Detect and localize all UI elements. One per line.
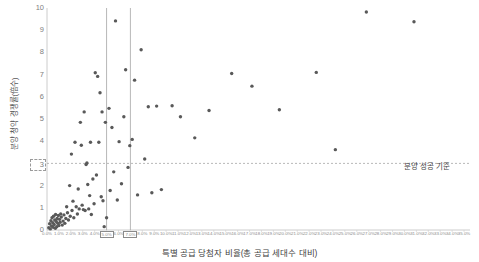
data-point bbox=[65, 205, 68, 208]
x-tick-label: 7.0% bbox=[123, 231, 137, 238]
data-point bbox=[57, 224, 60, 227]
data-point bbox=[126, 166, 129, 169]
data-point bbox=[69, 215, 72, 218]
x-tick-label: 17.0% bbox=[243, 232, 255, 236]
data-point bbox=[70, 152, 73, 155]
x-axis-title: 특별 공급 당첨자 비율(총 공급 세대수 대비) bbox=[0, 246, 479, 258]
x-tick-label: 19.0% bbox=[267, 232, 279, 236]
data-point bbox=[59, 212, 62, 215]
x-tick-label: 1.0% bbox=[54, 232, 64, 236]
data-point bbox=[107, 107, 110, 110]
x-tick-label: 30.0% bbox=[398, 232, 410, 236]
scatter-chart: 분양 청약 경쟁률(倍수) 012345678910 0.0%1.0%2.0%3… bbox=[0, 0, 479, 262]
data-point bbox=[89, 141, 92, 144]
x-tick-label: 4.0% bbox=[90, 232, 100, 236]
data-point bbox=[315, 71, 318, 74]
data-point bbox=[104, 121, 107, 124]
data-point bbox=[139, 48, 142, 51]
data-point bbox=[74, 205, 77, 208]
data-point bbox=[90, 213, 93, 216]
x-tick-label: 13.0% bbox=[196, 232, 208, 236]
x-tick-label: 9.0% bbox=[149, 232, 159, 236]
x-tick-label: 29.0% bbox=[386, 232, 398, 236]
data-point bbox=[128, 144, 131, 147]
data-point bbox=[334, 148, 337, 151]
data-point bbox=[66, 211, 69, 214]
data-point bbox=[116, 198, 119, 201]
data-point bbox=[83, 209, 86, 212]
data-point bbox=[278, 108, 281, 111]
x-tick-label: 16.0% bbox=[231, 232, 243, 236]
data-point bbox=[100, 110, 103, 113]
data-point bbox=[80, 143, 83, 146]
x-tick-label: 24.0% bbox=[327, 232, 339, 236]
data-point bbox=[92, 202, 95, 205]
data-point bbox=[101, 199, 104, 202]
data-point bbox=[63, 222, 66, 225]
x-tick-label: 28.0% bbox=[374, 232, 386, 236]
data-point bbox=[88, 194, 91, 197]
x-tick-label: 21.0% bbox=[291, 232, 303, 236]
data-point bbox=[82, 110, 85, 113]
data-point bbox=[98, 91, 101, 94]
data-point bbox=[73, 141, 76, 144]
data-point bbox=[100, 195, 103, 198]
x-axis-ticks: 0.0%1.0%2.0%3.0%4.0%5.0%6.0%7.0%8.0%9.0%… bbox=[0, 232, 479, 244]
x-tick-label: 31.0% bbox=[410, 232, 422, 236]
x-tick-label: 14.0% bbox=[208, 232, 220, 236]
x-tick-label: 5.0% bbox=[100, 231, 114, 238]
data-point bbox=[133, 78, 136, 81]
data-point bbox=[365, 10, 368, 13]
data-point bbox=[193, 136, 196, 139]
x-tick-label: 15.0% bbox=[219, 232, 231, 236]
data-point bbox=[68, 184, 71, 187]
data-point bbox=[62, 213, 65, 216]
x-tick-label: 20.0% bbox=[279, 232, 291, 236]
data-point bbox=[412, 20, 415, 23]
x-tick-label: 8.0% bbox=[137, 232, 147, 236]
x-tick-label: 27.0% bbox=[362, 232, 374, 236]
x-tick-label: 18.0% bbox=[255, 232, 267, 236]
x-tick-label: 12.0% bbox=[184, 232, 196, 236]
x-tick-label: 3.0% bbox=[78, 232, 88, 236]
x-tick-label: 10.0% bbox=[160, 232, 172, 236]
data-point bbox=[250, 84, 253, 87]
data-point bbox=[79, 121, 82, 124]
data-point bbox=[80, 203, 83, 206]
data-point bbox=[120, 182, 123, 185]
data-point bbox=[155, 104, 158, 107]
data-point bbox=[150, 191, 153, 194]
data-point bbox=[97, 141, 100, 144]
x-tick-label: 33.0% bbox=[434, 232, 446, 236]
data-point bbox=[58, 221, 61, 224]
data-point bbox=[130, 138, 133, 141]
data-point bbox=[72, 216, 75, 219]
x-tick-label: 0.0% bbox=[42, 232, 52, 236]
x-tick-label: 23.0% bbox=[315, 232, 327, 236]
x-tick-label: 32.0% bbox=[422, 232, 434, 236]
data-point bbox=[96, 75, 99, 78]
data-point bbox=[86, 183, 89, 186]
x-tick-label: 35.0% bbox=[458, 232, 470, 236]
data-point bbox=[105, 216, 108, 219]
data-point bbox=[91, 177, 94, 180]
data-point bbox=[179, 115, 182, 118]
data-point bbox=[160, 188, 163, 191]
data-point bbox=[60, 215, 63, 218]
data-point bbox=[76, 212, 79, 215]
data-point bbox=[52, 223, 55, 226]
x-tick-label: 22.0% bbox=[303, 232, 315, 236]
data-point bbox=[94, 71, 97, 74]
data-point bbox=[110, 126, 113, 129]
data-point bbox=[114, 19, 117, 22]
data-point bbox=[71, 199, 74, 202]
data-point bbox=[124, 68, 127, 71]
x-tick-label: 11.0% bbox=[172, 232, 184, 236]
data-point bbox=[70, 209, 73, 212]
threshold-annotation-label: 분양 성공 기준 bbox=[404, 160, 450, 171]
data-point bbox=[117, 140, 120, 143]
x-tick-label: 6.0% bbox=[113, 232, 123, 236]
data-point bbox=[122, 115, 125, 118]
data-point bbox=[112, 170, 115, 173]
x-tick-label: 25.0% bbox=[339, 232, 351, 236]
